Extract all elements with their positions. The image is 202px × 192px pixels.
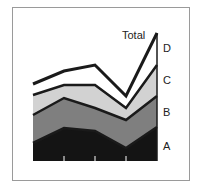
total-label: Total: [122, 30, 145, 41]
series-label-a: A: [163, 141, 170, 152]
series-label-b: B: [163, 107, 170, 118]
stacked-area-chart: [0, 0, 202, 192]
series-label-d: D: [163, 43, 171, 54]
series-label-c: C: [163, 75, 171, 86]
